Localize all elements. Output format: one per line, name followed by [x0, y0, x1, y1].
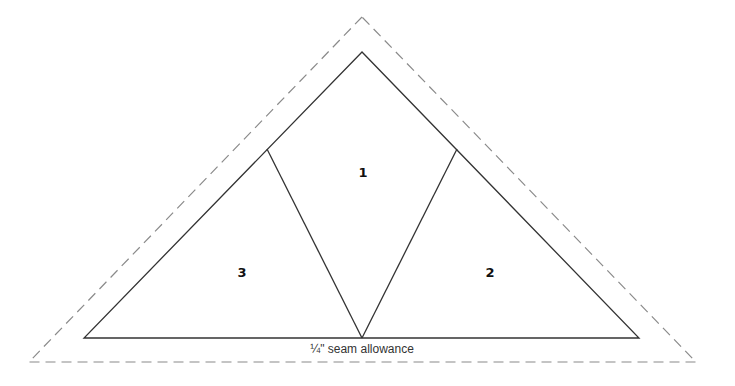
piece-divider-right: [362, 149, 457, 338]
piece-3-label: 3: [237, 265, 246, 280]
seam-allowance-caption: ¼" seam allowance: [310, 342, 414, 356]
block-outline: [84, 52, 639, 338]
piece-2-label: 2: [485, 265, 494, 280]
piece-1-label: 1: [358, 165, 367, 180]
piece-divider-left: [267, 149, 362, 338]
quilt-diagram: 1 2 3 ¼" seam allowance: [0, 0, 735, 386]
seam-allowance-outline: [29, 17, 696, 362]
